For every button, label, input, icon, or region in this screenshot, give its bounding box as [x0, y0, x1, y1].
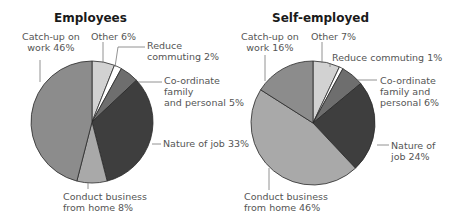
label-self-other: Other 7%: [311, 31, 356, 42]
chart-title-self-employed: Self-employed: [272, 11, 369, 25]
label-employees-coordinate: Co-ordinate family and personal 5%: [164, 75, 244, 108]
label-self-coordinate: Co-ordinate family and personal 6%: [380, 75, 439, 108]
pie-self-employed: [251, 42, 389, 190]
label-self-reduce: Reduce commuting 1%: [332, 52, 442, 63]
label-self-conduct: Conduct business from home 46%: [244, 191, 328, 213]
label-self-nature: Nature of job 24%: [391, 140, 435, 162]
chart-title-employees: Employees: [54, 11, 127, 25]
leader-line-coordinate: [115, 47, 118, 67]
label-employees-conduct: Conduct business from home 8%: [63, 191, 147, 213]
pie-employees: [31, 42, 162, 189]
label-employees-catchup: Catch-up on work 46%: [22, 31, 80, 53]
label-self-catchup: Catch-up on work 16%: [241, 31, 299, 53]
label-employees-nature: Nature of job 33%: [163, 138, 249, 149]
label-employees-other: Other 6%: [91, 31, 136, 42]
label-employees-reduce: Reduce commuting 2%: [147, 40, 219, 62]
